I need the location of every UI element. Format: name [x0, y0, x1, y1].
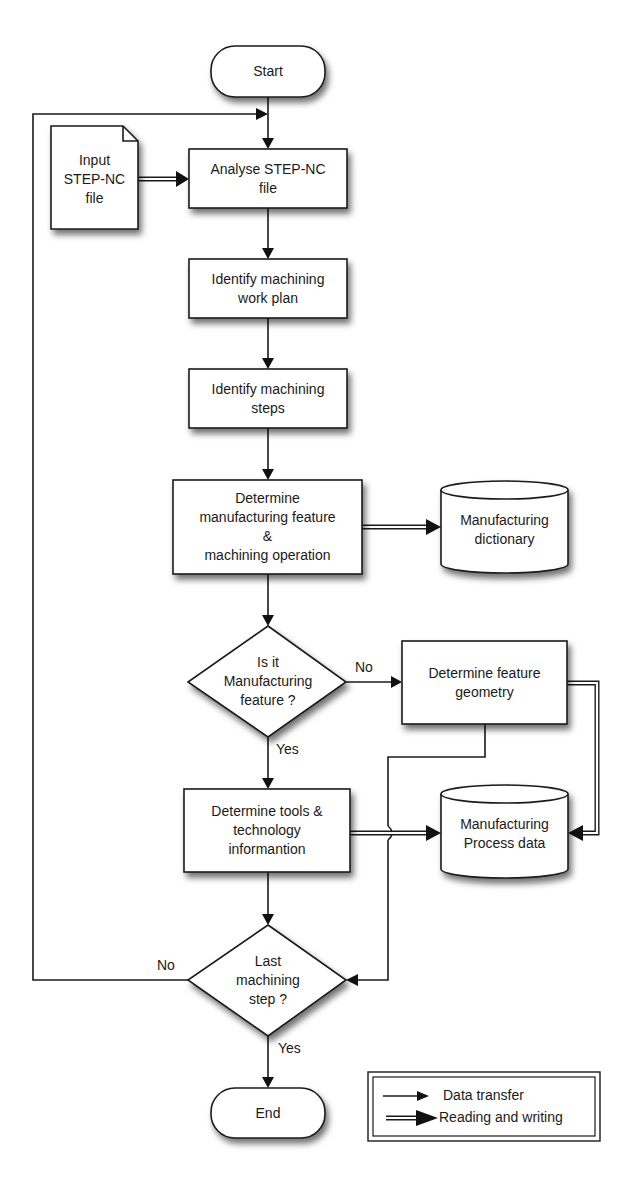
feature-geometry-box[interactable] — [402, 641, 567, 724]
arrowhead-icon — [346, 974, 358, 986]
edge-label-last-yes: Yes — [278, 1040, 301, 1056]
legend — [368, 1072, 600, 1141]
edge-label-feature-no: No — [355, 659, 373, 675]
arrowhead-icon — [262, 914, 274, 925]
arrowhead-icon — [391, 676, 402, 688]
decision-feature-diamond[interactable] — [188, 626, 346, 737]
steps-box[interactable] — [189, 369, 347, 428]
arrowhead-icon — [262, 138, 274, 149]
arrowhead-icon — [262, 1077, 274, 1088]
tools-box[interactable] — [184, 789, 350, 872]
arrowhead-icon — [262, 615, 274, 626]
arrowhead-icon — [426, 519, 441, 535]
legend-outer-border — [368, 1072, 600, 1141]
edge-label-last-no: No — [157, 957, 175, 973]
arrowhead-icon — [256, 108, 268, 120]
dictionary-database[interactable] — [441, 481, 568, 573]
edge-label-feature-yes: Yes — [276, 741, 299, 757]
arrowhead-icon — [262, 248, 274, 259]
end-terminator[interactable] — [211, 1088, 325, 1138]
process-data-database[interactable] — [441, 785, 568, 878]
start-terminator[interactable] — [211, 46, 325, 97]
arrowhead-icon — [176, 171, 189, 187]
analyse-box[interactable] — [189, 149, 347, 208]
nodes — [51, 46, 568, 1138]
arrowhead-icon — [426, 825, 441, 841]
arrowhead-icon — [568, 825, 583, 841]
flowchart-canvas — [0, 0, 627, 1192]
arrowhead-icon — [262, 469, 274, 480]
work-plan-box[interactable] — [189, 259, 347, 318]
decision-last-diamond[interactable] — [188, 925, 346, 1036]
mfg-feature-box[interactable] — [173, 480, 362, 574]
connectors — [33, 97, 597, 1088]
legend-data-transfer-label: Data transfer — [443, 1087, 524, 1103]
edge-geometry-processdata — [567, 683, 597, 833]
arrowhead-icon — [262, 778, 274, 789]
legend-reading-writing-label: Reading and writing — [439, 1109, 563, 1125]
arrowhead-icon — [262, 358, 274, 369]
